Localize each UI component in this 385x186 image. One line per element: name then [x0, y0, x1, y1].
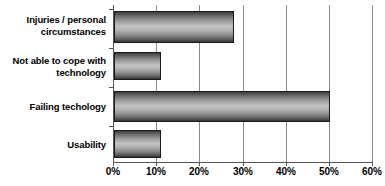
category-label-line: Usability — [0, 139, 106, 151]
xtick-label-40: 40% — [264, 166, 308, 177]
gridline-40 — [286, 5, 287, 163]
xtick-label-20: 20% — [177, 166, 221, 177]
category-label-line: Injuries / personal — [0, 14, 106, 26]
category-label-line: Not able to cope with — [0, 55, 106, 67]
bar-failing-techology — [114, 91, 330, 122]
x-axis-tick-labels: 0% 10% 20% 30% 40% 50% 60% — [0, 166, 385, 182]
plot-area — [113, 5, 372, 163]
category-label-injuries-personal-circumstances: Injuries / personal circumstances — [0, 14, 106, 37]
gridline-30 — [243, 5, 244, 163]
xtick-label-50: 50% — [307, 166, 351, 177]
bar-not-able-to-cope-with-technology — [114, 52, 161, 80]
ytick-3 — [109, 126, 113, 127]
gridline-50 — [329, 5, 330, 163]
category-label-failing-techology: Failing techology — [0, 101, 106, 113]
category-label-line: circumstances — [0, 26, 106, 38]
xtick-label-60: 60% — [350, 166, 385, 177]
category-label-usability: Usability — [0, 139, 106, 151]
ytick-2 — [109, 87, 113, 88]
xtick-label-0: 0% — [91, 166, 135, 177]
xtick-label-30: 30% — [221, 166, 265, 177]
ytick-0 — [109, 9, 113, 10]
ytick-1 — [109, 48, 113, 49]
xtick-label-10: 10% — [134, 166, 178, 177]
category-label-line: technology — [0, 67, 106, 79]
bar-injuries-personal-circumstances — [114, 11, 234, 43]
category-label-not-able-to-cope-with-technology: Not able to cope with technology — [0, 55, 106, 78]
gridline-60 — [372, 5, 373, 163]
category-axis-labels: Injuries / personal circumstances Not ab… — [0, 0, 110, 163]
bar-usability — [114, 130, 161, 158]
category-label-line: Failing techology — [0, 101, 106, 113]
bar-chart: Injuries / personal circumstances Not ab… — [0, 0, 385, 186]
